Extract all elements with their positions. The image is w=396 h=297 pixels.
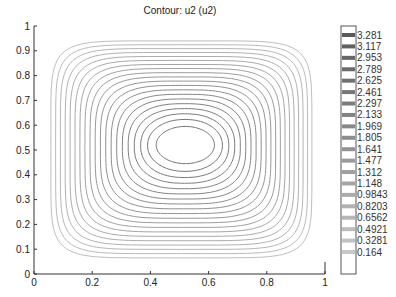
colorbar-label: 3.281 xyxy=(357,30,382,41)
y-tick-label: 0.6 xyxy=(16,120,30,131)
colorbar-band xyxy=(342,181,355,185)
y-tick-label: 1 xyxy=(24,21,30,32)
colorbar-label: 2.297 xyxy=(357,98,382,109)
colorbar-band xyxy=(342,239,355,243)
y-tick-label: 0.3 xyxy=(16,194,30,205)
colorbar-label: 0.164 xyxy=(357,247,382,258)
colorbar-band xyxy=(342,124,355,128)
y-tick-label: 0 xyxy=(24,269,30,280)
colorbar-label: 2.953 xyxy=(357,52,382,63)
colorbar-band xyxy=(342,79,355,83)
x-tick-label: 0.8 xyxy=(260,277,274,288)
contour-line xyxy=(60,49,303,250)
contour-line xyxy=(75,60,290,236)
colorbar-label: 0.8203 xyxy=(357,201,388,212)
y-tick-label: 0.5 xyxy=(16,145,30,156)
colorbar-band xyxy=(342,90,355,94)
colorbar-label: 2.789 xyxy=(357,64,382,75)
colorbar-band xyxy=(342,67,355,71)
colorbar-band xyxy=(342,44,355,48)
colorbar-label: 0.4921 xyxy=(357,224,388,235)
colorbar-label: 1.312 xyxy=(357,167,382,178)
y-tick-label: 0.4 xyxy=(16,169,30,180)
colorbar-label: 1.805 xyxy=(357,132,382,143)
colorbar-band xyxy=(342,170,355,174)
x-tick-label: 0.6 xyxy=(202,277,216,288)
x-tick-label: 0.4 xyxy=(143,277,157,288)
contour-figure: Contour: u2 (u2) 00.20.40.60.81 00.10.20… xyxy=(0,0,396,297)
colorbar-label: 1.148 xyxy=(357,178,382,189)
y-tick-label: 0.2 xyxy=(16,219,30,230)
colorbar-label: 2.625 xyxy=(357,75,382,86)
colorbar-label: 1.969 xyxy=(357,121,382,132)
colorbar-band xyxy=(342,113,355,117)
colorbar-label: 1.641 xyxy=(357,144,382,155)
y-tick-label: 0.7 xyxy=(16,95,30,106)
contour-line xyxy=(156,126,214,163)
colorbar-band xyxy=(342,136,355,140)
colorbar-label: 0.3281 xyxy=(357,235,388,246)
contour-line xyxy=(141,114,229,178)
colorbar-label: 1.477 xyxy=(357,155,382,166)
colorbar-band xyxy=(342,227,355,231)
colorbar-label: 0.9843 xyxy=(357,189,388,200)
contour-line xyxy=(128,104,240,189)
colorbar-band xyxy=(342,56,355,60)
colorbar-band xyxy=(342,33,355,37)
colorbar-band xyxy=(342,193,355,197)
y-tick-label: 0.8 xyxy=(16,70,30,81)
colorbar-label: 2.133 xyxy=(357,109,382,120)
colorbar-band xyxy=(342,204,355,208)
chart-title: Contour: u2 (u2) xyxy=(144,5,217,16)
x-tick-label: 0 xyxy=(31,277,37,288)
contour-line xyxy=(90,73,276,223)
colorbar-label: 0.6562 xyxy=(357,212,388,223)
contour-line xyxy=(95,77,271,218)
y-tick-label: 0.1 xyxy=(16,244,30,255)
colorbar-band xyxy=(342,250,355,254)
y-tick-label: 0.9 xyxy=(16,45,30,56)
x-tick-label: 0.2 xyxy=(85,277,99,288)
colorbar-band xyxy=(342,147,355,151)
contour-lines xyxy=(51,41,312,258)
colorbar-label: 2.461 xyxy=(357,87,382,98)
colorbar-band xyxy=(342,102,355,106)
x-tick-label: 1 xyxy=(322,277,328,288)
colorbar-band xyxy=(342,216,355,220)
colorbar-label: 3.117 xyxy=(357,41,382,52)
colorbar-band xyxy=(342,159,355,163)
colorbar-legend: 3.2813.1172.9532.7892.6252.4612.2972.133… xyxy=(341,26,388,274)
